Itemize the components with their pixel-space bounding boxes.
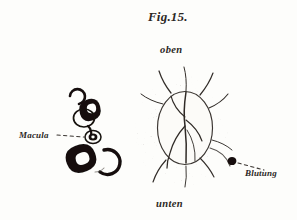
crescent-lower — [100, 149, 120, 174]
hemorrhage-dot — [228, 157, 237, 165]
macula-pigment-cluster — [66, 89, 120, 174]
label-unten: unten — [156, 199, 183, 210]
label-oben: oben — [160, 45, 183, 56]
figure-title: Fig.15. — [148, 10, 188, 23]
macula-leader-line — [57, 135, 84, 137]
crescent-lower-faint — [95, 168, 104, 172]
figure-plate — [0, 0, 297, 220]
crescent-top — [70, 89, 85, 104]
macula-center — [91, 136, 94, 139]
label-blutung: Blutung — [245, 169, 277, 178]
label-macula: Macula — [19, 131, 49, 140]
